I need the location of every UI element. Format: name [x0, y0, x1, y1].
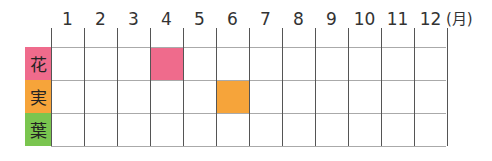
month-header: 2	[84, 8, 117, 30]
grid-line-vertical	[348, 28, 349, 146]
month-header: 8	[282, 8, 315, 30]
row-label: 花	[25, 47, 51, 80]
highlight-cell	[216, 80, 249, 113]
grid-line-vertical	[414, 28, 415, 146]
grid-line-vertical	[183, 28, 184, 146]
grid-line-vertical	[150, 28, 151, 146]
month-unit-label: (月)	[446, 8, 473, 30]
month-header: 1	[51, 8, 84, 30]
highlight-cell	[150, 47, 183, 80]
row-label: 実	[25, 80, 51, 113]
month-header: 6	[216, 8, 249, 30]
month-header: 4	[150, 8, 183, 30]
grid-line-vertical	[216, 28, 217, 146]
month-header: 7	[249, 8, 282, 30]
month-header: 5	[183, 8, 216, 30]
grid-line-vertical	[249, 28, 250, 146]
grid-line-vertical	[51, 28, 52, 146]
month-header: 9	[315, 8, 348, 30]
grid-line-vertical	[117, 28, 118, 146]
grid-line-vertical	[447, 28, 448, 146]
row-label: 葉	[25, 113, 51, 146]
grid-line-vertical	[282, 28, 283, 146]
grid-line-horizontal	[51, 146, 446, 147]
grid-line-vertical	[381, 28, 382, 146]
grid-line-vertical	[315, 28, 316, 146]
grid-line-vertical	[84, 28, 85, 146]
month-header: 12	[414, 8, 447, 30]
month-header: 10	[348, 8, 381, 30]
month-header: 3	[117, 8, 150, 30]
month-header: 11	[381, 8, 414, 30]
